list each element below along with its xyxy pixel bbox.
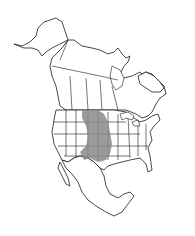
north-america-map [0, 0, 195, 236]
range-map: North America range map [0, 0, 195, 236]
